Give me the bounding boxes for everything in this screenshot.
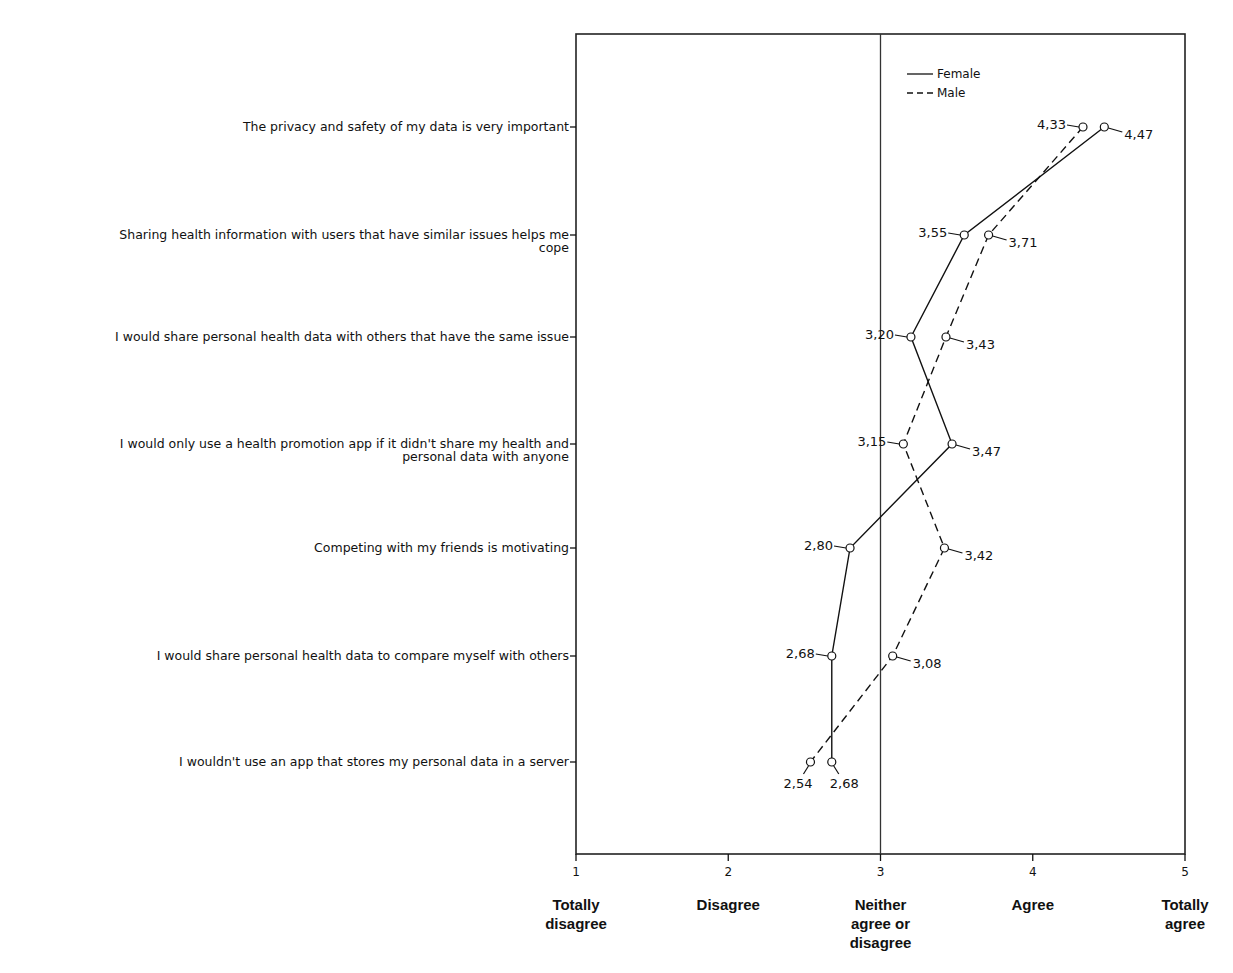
data-point-marker (828, 652, 836, 660)
data-label-leader (834, 546, 846, 548)
data-label-leader (956, 445, 970, 449)
data-label-leader (834, 766, 839, 774)
data-label-leader (948, 549, 962, 553)
data-label-leader (816, 654, 828, 656)
scale-anchor-label: agree (1165, 915, 1205, 932)
data-label-leader (1108, 128, 1122, 132)
data-label-leader (1067, 125, 1079, 127)
data-point-marker (940, 544, 948, 552)
data-point-label: 2,80 (804, 538, 833, 553)
scale-anchor-label: Totally (552, 896, 600, 913)
data-point-marker (948, 440, 956, 448)
category-label: cope (539, 240, 569, 255)
value-tick-label: 3 (877, 865, 885, 879)
data-point-marker (985, 231, 993, 239)
legend-male-label: Male (937, 86, 965, 100)
value-axis: 1Totallydisagree2Disagree3Neitheragree o… (545, 854, 1209, 951)
data-point-label: 4,47 (1124, 127, 1153, 142)
data-point-marker (942, 333, 950, 341)
scale-anchor-label: Neither (855, 896, 907, 913)
data-label-leader (948, 233, 960, 235)
category-label: I would share personal health data to co… (157, 648, 569, 663)
data-point-label: 3,71 (1009, 235, 1038, 250)
data-point-marker (907, 333, 915, 341)
data-point-label: 3,43 (966, 337, 995, 352)
data-point-label: 3,42 (964, 548, 993, 563)
data-label-leader (887, 442, 899, 444)
scale-anchor-label: disagree (545, 915, 607, 932)
scale-anchor-label: disagree (850, 934, 912, 951)
value-tick-label: 1 (572, 865, 580, 879)
series-female: 4,473,553,203,472,802,682,68 (786, 123, 1153, 791)
data-point-marker (1100, 123, 1108, 131)
scale-anchor-label: Disagree (697, 896, 760, 913)
series-line (810, 127, 1083, 762)
data-point-label: 2,68 (786, 646, 815, 661)
category-label: Competing with my friends is motivating (314, 540, 569, 555)
data-label-leader (803, 766, 808, 774)
scale-anchor-label: Agree (1011, 896, 1054, 913)
category-label: The privacy and safety of my data is ver… (242, 119, 569, 134)
data-point-label: 2,54 (784, 776, 813, 791)
data-point-label: 3,20 (865, 327, 894, 342)
category-axis: The privacy and safety of my data is ver… (115, 119, 576, 769)
chart-canvas: The privacy and safety of my data is ver… (0, 0, 1233, 973)
data-point-marker (899, 440, 907, 448)
category-label: Sharing health information with users th… (119, 227, 569, 242)
scale-anchor-label: Totally (1161, 896, 1209, 913)
category-label: personal data with anyone (402, 449, 569, 464)
value-tick-label: 4 (1029, 865, 1037, 879)
series-male: 4,333,713,433,153,423,082,54 (784, 117, 1087, 791)
category-label: I wouldn't use an app that stores my per… (179, 754, 570, 769)
value-tick-label: 2 (724, 865, 732, 879)
data-label-leader (993, 236, 1007, 240)
data-point-marker (889, 652, 897, 660)
value-tick-label: 5 (1181, 865, 1189, 879)
legend-female-label: Female (937, 67, 980, 81)
data-point-label: 2,68 (830, 776, 859, 791)
series-lines: 4,473,553,203,472,802,682,684,333,713,43… (784, 117, 1154, 791)
data-label-leader (897, 657, 911, 661)
data-point-label: 4,33 (1037, 117, 1066, 132)
data-point-marker (846, 544, 854, 552)
scale-anchor-label: agree or (851, 915, 910, 932)
data-label-leader (950, 338, 964, 342)
data-point-marker (806, 758, 814, 766)
data-point-marker (828, 758, 836, 766)
data-point-marker (1079, 123, 1087, 131)
data-point-label: 3,15 (857, 434, 886, 449)
legend: Female Male (907, 67, 980, 100)
category-label: I would share personal health data with … (115, 329, 569, 344)
data-point-marker (960, 231, 968, 239)
data-point-label: 3,08 (913, 656, 942, 671)
data-label-leader (895, 335, 907, 337)
data-point-label: 3,47 (972, 444, 1001, 459)
data-point-label: 3,55 (918, 225, 947, 240)
